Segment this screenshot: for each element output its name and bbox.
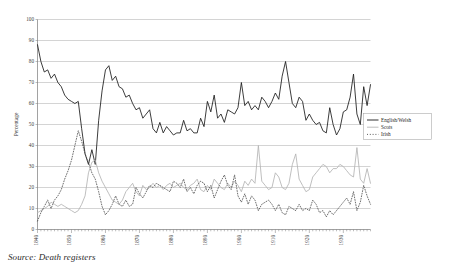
y-tick-label: 30 [29, 163, 35, 169]
line-chart: 0102030405060708090100 18401850186018701… [0, 0, 450, 271]
chart-legend: English/WelshScotsIrish [364, 114, 432, 140]
y-axis-title: Percentage [13, 112, 19, 136]
x-tick-label: 1880 [168, 235, 174, 246]
x-axis-ticks [38, 230, 371, 234]
source-note: Source: Death registers [8, 252, 96, 262]
y-tick-label: 0 [31, 226, 34, 232]
legend-label-2: Irish [381, 131, 391, 137]
y-tick-label: 40 [29, 142, 35, 148]
x-tick-label: 1870 [134, 235, 140, 246]
y-tick-label: 50 [29, 121, 35, 127]
data-series-layer [38, 45, 371, 221]
y-tick-label: 70 [29, 79, 35, 85]
legend-label-1: Scots [381, 124, 392, 130]
x-tick-label: 1850 [66, 235, 72, 246]
x-tick-label: 1840 [33, 235, 39, 246]
y-tick-label: 20 [29, 184, 35, 190]
y-tick-label: 80 [29, 58, 35, 64]
x-tick-label: 1900 [236, 235, 242, 246]
x-tick-label: 1890 [202, 235, 208, 246]
legend-label-0: English/Welsh [381, 117, 412, 123]
x-tick-label: 1920 [304, 235, 310, 246]
series-line-english-welsh [38, 45, 371, 165]
y-tick-label: 100 [26, 16, 34, 22]
y-axis-tick-labels: 0102030405060708090100 [26, 16, 34, 232]
y-tick-label: 60 [29, 100, 35, 106]
series-line-irish [38, 131, 371, 221]
chart-container: 0102030405060708090100 18401850186018701… [0, 0, 450, 271]
y-tick-label: 10 [29, 205, 35, 211]
series-line-scots [38, 146, 371, 213]
x-tick-label: 1860 [100, 235, 106, 246]
x-tick-label: 1930 [338, 235, 344, 246]
x-tick-label: 1910 [270, 235, 276, 246]
y-tick-label: 90 [29, 37, 35, 43]
x-axis-tick-labels: 1840185018601870188018901900191019201930 [33, 235, 345, 246]
